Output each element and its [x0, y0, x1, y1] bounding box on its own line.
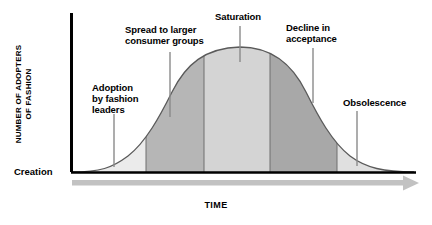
annotation-saturation: Saturation	[215, 11, 261, 22]
y-axis-title: NUMBER OF ADOPTERS OF FASHION	[14, 34, 34, 154]
fashion-adoption-curve-figure: NUMBER OF ADOPTERS OF FASHION TIME Creat…	[0, 0, 432, 225]
zone-fill-spread	[146, 40, 204, 172]
time-arrow	[72, 176, 419, 191]
time-arrow-head	[403, 176, 419, 191]
annotation-decline-in-acceptance: Decline in acceptance	[286, 22, 337, 44]
annotation-obsolescence: Obsolescence	[343, 97, 406, 108]
annotation-adoption-by-fashion-leaders: Adoption by fashion leaders	[92, 82, 139, 115]
bell-curve-chart-svg	[0, 0, 432, 225]
creation-origin-label: Creation	[14, 166, 53, 177]
zone-fill-saturation	[204, 40, 270, 172]
x-axis-title: TIME	[0, 200, 432, 210]
time-arrow-shaft	[72, 180, 403, 186]
annotation-spread-to-larger-consumer-groups: Spread to larger consumer groups	[125, 24, 204, 46]
